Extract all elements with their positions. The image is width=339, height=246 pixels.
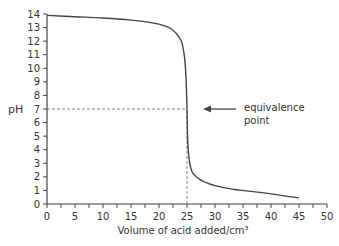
y-tick-label: 8 [34,90,40,101]
reference-lines [47,109,187,204]
y-tick-label: 6 [34,117,40,128]
y-tick-label: 1 [34,185,40,196]
x-tick-label: 10 [97,211,110,222]
y-tick-label: 14 [27,9,40,20]
x-tick-label: 30 [209,211,222,222]
y-tick-label: 11 [27,49,40,60]
y-axis-label: pH [8,103,23,116]
y-tick-label: 4 [34,144,40,155]
x-tick-label: 0 [44,211,50,222]
x-tick-label: 35 [237,211,250,222]
axes: 0123456789101112131405101520253035404550… [8,9,333,237]
y-tick-label: 2 [34,171,40,182]
x-tick-label: 5 [72,211,78,222]
y-tick-label: 10 [27,63,40,74]
y-tick-label: 13 [27,22,40,33]
x-tick-label: 25 [181,211,194,222]
x-tick-label: 50 [321,211,334,222]
x-tick-label: 20 [153,211,166,222]
y-tick-label: 7 [34,104,40,115]
y-tick-label: 3 [34,158,40,169]
y-tick-label: 0 [34,199,40,210]
titration-chart: 0123456789101112131405101520253035404550… [0,0,339,246]
y-tick-label: 5 [34,131,40,142]
y-tick-label: 12 [27,36,40,47]
x-tick-label: 45 [293,211,306,222]
x-tick-label: 15 [125,211,138,222]
x-axis-label: Volume of acid added/cm³ [117,225,248,236]
y-tick-label: 9 [34,76,40,87]
annotation-text: equivalence [244,102,305,113]
equivalence-annotation: equivalencepoint [203,102,305,126]
annotation-text: point [244,115,270,126]
x-tick-label: 40 [265,211,278,222]
